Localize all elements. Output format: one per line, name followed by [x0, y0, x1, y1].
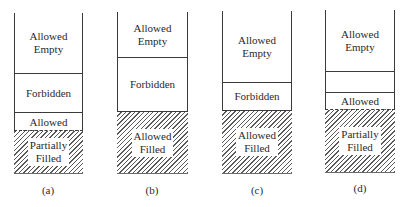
band-label: Forbidden [234, 90, 279, 103]
panel-b: Allowed Empty Forbidden Allowed Filled [117, 12, 188, 173]
band-allowed-filled: Allowed Filled [222, 110, 292, 174]
band-allowed: Allowed [14, 112, 83, 131]
band-forbidden: Forbidden [222, 82, 292, 110]
band-allowed-empty: Allowed Empty [117, 12, 188, 57]
caption-c: (c) [237, 184, 277, 196]
caption-b: (b) [132, 184, 172, 196]
band-forbidden: Forbidden [14, 73, 83, 112]
band-label: Allowed Empty [238, 34, 276, 60]
band-partially-filled: Partially Filled [325, 109, 395, 173]
band-label: Partially Filled [339, 127, 380, 155]
band-label: Allowed Empty [134, 22, 172, 48]
band-forbidden: Forbidden [117, 57, 188, 111]
caption-a: (a) [28, 184, 68, 196]
band-label: Allowed Empty [341, 28, 379, 54]
band-label: Partially Filled [28, 138, 69, 166]
band-label: Allowed Empty [30, 30, 68, 56]
band-allowed-empty: Allowed Empty [325, 10, 395, 71]
band-label: Allowed [30, 116, 68, 129]
band-label: Allowed [341, 95, 379, 108]
panel-a: Allowed Empty Forbidden Allowed Partiall… [14, 13, 83, 173]
panel-c: Allowed Empty Forbidden Allowed Filled [222, 11, 292, 173]
band-label: Allowed Filled [236, 128, 278, 156]
band-allowed: Allowed [325, 92, 395, 110]
band-label: Forbidden [130, 78, 175, 91]
band-label: Allowed Filled [132, 129, 174, 157]
band-partially-filled: Partially Filled [14, 130, 83, 174]
band-allowed-filled: Allowed Filled [117, 111, 188, 174]
panel-d: Allowed Empty Allowed Partially Filled [325, 10, 395, 172]
band-forbidden [325, 71, 395, 92]
band-label: Forbidden [26, 87, 71, 100]
caption-d: (d) [340, 182, 380, 194]
band-allowed-empty: Allowed Empty [222, 11, 292, 82]
band-allowed-empty: Allowed Empty [14, 13, 83, 73]
